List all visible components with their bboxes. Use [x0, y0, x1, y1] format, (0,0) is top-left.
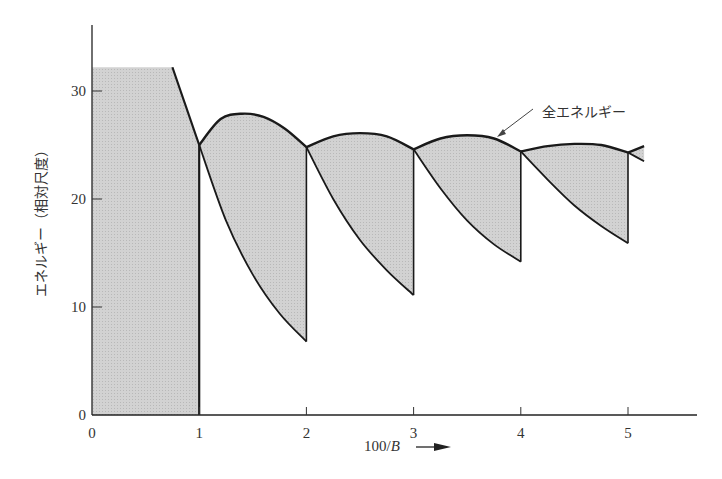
- x-tick-label: 5: [624, 425, 632, 441]
- x-tick-label: 2: [303, 425, 311, 441]
- fill-region-4: [521, 144, 628, 243]
- fill-region-0: [92, 67, 199, 415]
- x-tick-label: 4: [517, 425, 525, 441]
- annotation-label: 全エネルギー: [542, 104, 626, 120]
- y-axis-title: エネルギー（相対尺度）: [33, 143, 49, 297]
- x-tick-label: 0: [88, 425, 96, 441]
- y-tick-label: 10: [71, 299, 86, 315]
- annotation-arrow-line: [500, 109, 533, 134]
- fill-region-1: [199, 114, 306, 342]
- x-tick-label: 1: [195, 425, 203, 441]
- fill-region-3: [414, 135, 521, 261]
- fill-region-2: [306, 133, 413, 295]
- x-axis-arrow-icon: [416, 443, 451, 451]
- y-tick-label: 0: [79, 407, 87, 423]
- x-tick-label: 3: [410, 425, 418, 441]
- x-axis-title: 100/B: [364, 438, 400, 454]
- y-tick-label: 30: [71, 83, 86, 99]
- energy-chart: 012345 0102030 エネルギー（相対尺度） 100/B 全エネルギー: [0, 0, 722, 479]
- y-tick-label: 20: [71, 191, 86, 207]
